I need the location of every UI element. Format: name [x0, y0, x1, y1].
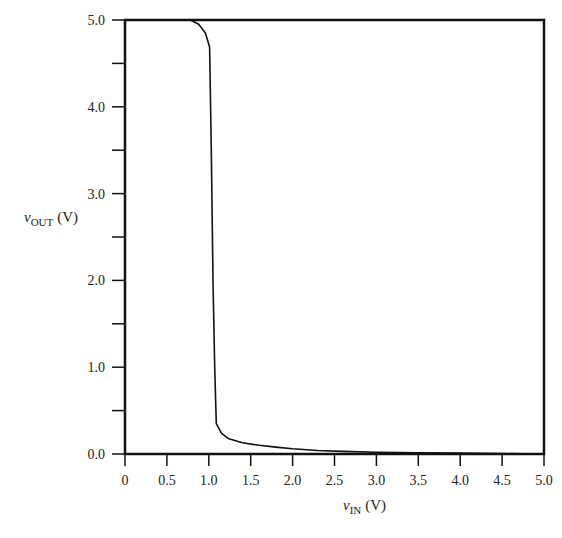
x-tick-label: 0.5: [158, 473, 176, 488]
x-tick-label: 1.5: [242, 473, 260, 488]
y-tick-label: 3.0: [88, 187, 106, 202]
x-axis-ticks: 00.51.01.52.02.53.03.54.04.55.0: [122, 454, 553, 488]
series-line-vout: [125, 20, 544, 454]
x-tick-label: 5.0: [535, 473, 553, 488]
y-tick-label: 2.0: [88, 273, 106, 288]
plot-border: [125, 20, 544, 454]
y-tick-label: 1.0: [88, 360, 106, 375]
y-axis-ticks: 0.01.02.03.04.05.0: [88, 13, 126, 462]
y-tick-label: 0.0: [88, 447, 106, 462]
x-tick-label: 1.0: [200, 473, 218, 488]
y-tick-label: 4.0: [88, 100, 106, 115]
plot-frame: [125, 20, 544, 454]
x-tick-label: 3.0: [368, 473, 386, 488]
x-tick-label: 2.5: [326, 473, 344, 488]
x-axis-label: vIN(V): [343, 497, 386, 516]
x-tick-label: 4.5: [493, 473, 511, 488]
x-tick-label: 4.0: [451, 473, 469, 488]
transfer-characteristic-chart: 0.01.02.03.04.05.0 00.51.01.52.02.53.03.…: [0, 0, 562, 538]
y-axis-label: vOUT(V): [24, 209, 78, 228]
y-tick-label: 5.0: [88, 13, 106, 28]
x-tick-label: 3.5: [410, 473, 428, 488]
data-series: [125, 20, 544, 454]
x-tick-label: 0: [122, 473, 129, 488]
x-tick-label: 2.0: [284, 473, 302, 488]
